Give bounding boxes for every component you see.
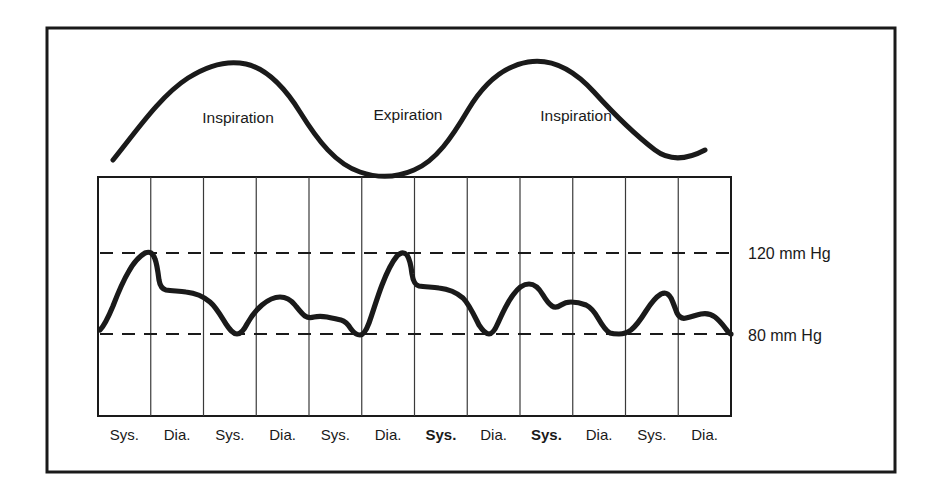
pressure-level-label: 80 mm Hg <box>748 327 822 344</box>
pulsus-paradoxus-figure: InspirationExpirationInspiration 120 mm … <box>0 0 925 496</box>
beat-phase-label: Sys. <box>215 426 244 443</box>
beat-phase-label: Sys. <box>637 426 666 443</box>
beat-phase-label: Dia. <box>480 426 507 443</box>
beat-phase-label: Sys. <box>110 426 139 443</box>
beat-phase-label: Sys. <box>321 426 350 443</box>
beat-phase-label: Dia. <box>375 426 402 443</box>
beat-phase-label: Sys. <box>531 426 562 443</box>
beat-phase-label: Dia. <box>164 426 191 443</box>
respiration-phase-label: Expiration <box>374 106 443 123</box>
respiration-phase-label: Inspiration <box>540 107 612 124</box>
beat-phase-label: Dia. <box>586 426 613 443</box>
figure-container: InspirationExpirationInspiration 120 mm … <box>0 0 925 496</box>
beat-phase-label: Dia. <box>269 426 296 443</box>
beat-phase-label: Dia. <box>691 426 718 443</box>
pressure-level-label: 120 mm Hg <box>748 245 831 262</box>
beat-phase-label: Sys. <box>425 426 456 443</box>
respiration-phase-label: Inspiration <box>202 109 274 126</box>
